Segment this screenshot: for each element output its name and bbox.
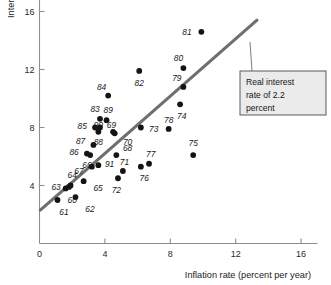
data-point-82[interactable] [136, 68, 142, 74]
data-point-label-87: 87 [76, 136, 86, 146]
data-point-label-67: 67 [74, 166, 84, 176]
data-point-label-78: 78 [164, 115, 174, 125]
data-point-79[interactable] [180, 84, 186, 90]
x-tick-label-8: 8 [168, 249, 173, 259]
data-point-label-89: 89 [104, 105, 114, 115]
data-point-76[interactable] [138, 164, 144, 170]
data-point-label-77: 77 [146, 149, 156, 159]
y-tick-label-4: 4 [29, 181, 34, 191]
data-point-label-80: 80 [174, 53, 184, 63]
data-point-label-76: 76 [139, 173, 149, 183]
callout-line-1: Real interest [246, 77, 295, 87]
data-point-labels-group: 6061626364656667686970717273747576777879… [51, 27, 198, 217]
data-point-label-75: 75 [189, 138, 199, 148]
data-point-label-74: 74 [177, 111, 187, 121]
data-point-label-70: 70 [123, 137, 133, 147]
data-point-label-65: 65 [93, 183, 103, 193]
data-point-77[interactable] [146, 161, 152, 167]
y-tick-label-8: 8 [29, 123, 34, 133]
data-point-label-90: 90 [94, 120, 104, 130]
x-tick-label-16: 16 [296, 249, 306, 259]
data-point-label-73: 73 [149, 124, 159, 134]
data-point-label-84: 84 [97, 82, 107, 92]
chart-canvas: 0481216 481216 6061626364656667686970717… [0, 0, 331, 285]
data-point-71[interactable] [120, 168, 126, 174]
data-point-label-81: 81 [182, 27, 191, 37]
data-point-86[interactable] [84, 151, 90, 157]
y-tick-label-12: 12 [24, 65, 34, 75]
data-point-75[interactable] [190, 152, 196, 158]
data-point-label-79: 79 [172, 73, 182, 83]
data-point-78[interactable] [166, 126, 172, 132]
data-point-70[interactable] [112, 130, 118, 136]
data-point-84[interactable] [105, 93, 111, 99]
x-axis-ticks: 0481216 [37, 239, 306, 259]
scatter-chart: 0481216 481216 6061626364656667686970717… [0, 0, 331, 285]
y-axis-ticks: 481216 [24, 7, 44, 191]
data-point-label-69: 69 [107, 120, 117, 130]
data-point-label-72: 72 [112, 185, 122, 195]
data-point-label-62: 62 [85, 204, 95, 214]
data-point-label-91: 91 [105, 159, 114, 169]
data-point-72[interactable] [115, 175, 121, 181]
data-point-label-66: 66 [82, 160, 92, 170]
data-point-label-88: 88 [94, 137, 104, 147]
data-point-80[interactable] [180, 65, 186, 71]
data-point-label-82: 82 [135, 78, 145, 88]
data-point-68[interactable] [113, 152, 119, 158]
data-point-label-86: 86 [69, 147, 79, 157]
data-point-74[interactable] [177, 101, 183, 107]
callout-line-3: percent [246, 103, 275, 113]
x-tick-label-12: 12 [231, 249, 241, 259]
data-point-label-60: 60 [68, 195, 78, 205]
data-point-65[interactable] [81, 178, 87, 184]
data-point-label-85: 85 [78, 121, 88, 131]
data-point-label-71: 71 [120, 157, 129, 167]
callout-leader-line [250, 42, 252, 71]
annotation-callout: Real interestrate of 2.2percent [240, 42, 326, 115]
x-axis-title: Inflation rate (percent per year) [185, 270, 311, 280]
data-point-91[interactable] [95, 162, 101, 168]
data-point-label-63: 63 [51, 182, 61, 192]
y-tick-label-16: 16 [24, 7, 34, 17]
data-point-label-61: 61 [59, 207, 68, 217]
x-tick-label-4: 4 [102, 249, 107, 259]
x-tick-label-0: 0 [37, 249, 42, 259]
y-axis-title: Interest rate (percent per year) [6, 0, 16, 18]
data-point-64[interactable] [68, 183, 74, 189]
data-point-81[interactable] [198, 29, 204, 35]
data-point-label-83: 83 [90, 104, 100, 114]
data-point-73[interactable] [138, 125, 144, 131]
data-point-61[interactable] [55, 197, 61, 203]
callout-line-2: rate of 2.2 [246, 90, 285, 100]
